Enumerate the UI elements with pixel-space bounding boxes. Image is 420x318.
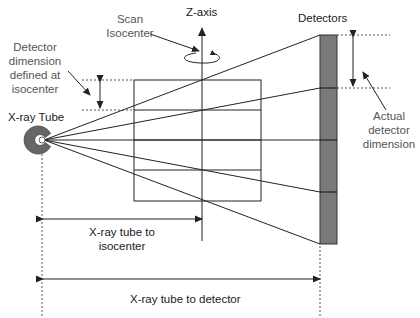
detectors-label: Detectors [298, 11, 347, 25]
dashed-guides [42, 35, 390, 318]
z-axis-label: Z-axis [186, 5, 217, 19]
scan-isocenter-label: Scan Isocenter [100, 12, 160, 40]
tube-to-isocenter-label: X-ray tube to isocenter [82, 225, 162, 253]
xray-tube-label: X-ray Tube [8, 110, 64, 124]
tube-to-detector-label: X-ray tube to detector [130, 292, 241, 306]
detector-dimension-label: Detector dimension defined at isocenter [2, 40, 68, 96]
detector-array [320, 35, 337, 244]
detector-dim-pointer [68, 71, 90, 95]
actual-dim-pointer [363, 72, 386, 110]
actual-detector-dimension-label: Actual detector dimension [358, 109, 420, 151]
xray-fan-beam [44, 35, 320, 244]
z-axis-arrowhead-icon [198, 27, 206, 36]
